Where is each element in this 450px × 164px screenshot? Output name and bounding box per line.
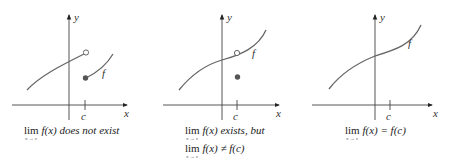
y-axis-label: y [379, 11, 385, 23]
lim-text: lim [185, 142, 200, 154]
caption-continuous: lim f(x) = f(c) [345, 124, 406, 136]
figure-canvas: y x c f y x c f y x c f [0, 0, 450, 164]
panel-continuous: y x c f [312, 11, 438, 122]
x-axis-label: x [123, 107, 129, 119]
filled-point [83, 75, 88, 80]
function-label: f [102, 67, 107, 79]
caption-does-not-exist: lim f(x) does not exist [24, 124, 119, 136]
limit-expression: f(x) exists, but [202, 124, 264, 136]
caption-exists-line2: lim f(x) ≠ f(c) [185, 142, 245, 154]
open-circle [234, 50, 239, 55]
x-axis-label: x [432, 107, 438, 119]
limit-expression: f(x) = f(c) [362, 124, 405, 136]
panel-exists-not-equal: y x c f [163, 11, 281, 122]
limit-expression: f(x) ≠ f(c) [202, 142, 244, 154]
function-curve [179, 30, 266, 90]
limit-subscript: x → c [25, 136, 37, 141]
y-axis-label: y [226, 11, 232, 23]
function-curve-right [86, 54, 113, 78]
limit-subscript: x → c [186, 154, 198, 159]
caption-exists-line1: lim f(x) exists, but [185, 124, 264, 136]
limit-subscript: x → c [346, 136, 358, 141]
c-label: c [386, 110, 391, 122]
c-label: c [81, 110, 86, 122]
lim-text: lim [185, 124, 200, 136]
c-label: c [233, 110, 238, 122]
lim-text: lim [24, 124, 39, 136]
filled-point [235, 74, 240, 79]
function-label: f [252, 47, 257, 59]
lim-text: lim [345, 124, 360, 136]
y-axis-label: y [73, 11, 79, 23]
x-axis-label: x [275, 107, 281, 119]
limit-subscript: x → c [186, 136, 198, 141]
limit-expression: f(x) does not exist [41, 124, 119, 136]
panel-does-not-exist: y x c f [12, 11, 129, 122]
open-circle [83, 50, 88, 55]
function-curve-left [27, 54, 84, 90]
